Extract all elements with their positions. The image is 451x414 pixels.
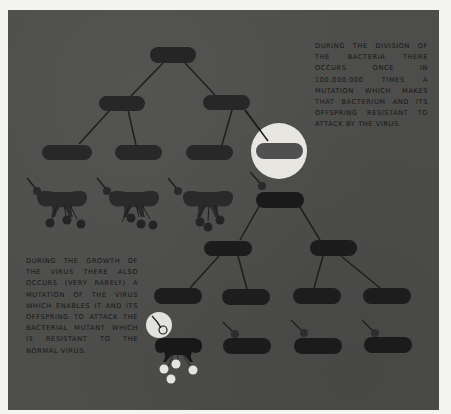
virus-at-resistant-mutant	[250, 172, 266, 190]
mutant-bacterium-gen2-right	[310, 240, 357, 256]
resistant-bacterium-bottom-1	[223, 322, 271, 354]
lysed-bacterium-3	[168, 178, 233, 232]
bacterium-gen3-2	[115, 145, 162, 160]
caption-virus-mutation: During the growth of the virus there als…	[26, 256, 138, 357]
mutant-bacterium-gen3-2	[222, 289, 270, 305]
bacterium-root	[150, 47, 196, 63]
bacterium-gen2-right	[203, 95, 250, 110]
bacterium-gen3-1	[42, 145, 92, 160]
lysed-bacterium-1	[27, 178, 87, 229]
caption-bacterial-mutation: During the division of the bacteria ther…	[315, 41, 428, 131]
bacterium-lysed-by-mutant-virus	[155, 338, 202, 384]
mutant-bacterium-gen1	[256, 192, 304, 208]
lysed-bacterium-2	[97, 178, 159, 230]
resistant-bacterium-bottom-3	[362, 320, 412, 353]
mutant-bacterium-gen2-left	[204, 241, 252, 256]
mutant-virus-progeny	[160, 365, 169, 374]
mutant-bacterium-gen3-3	[293, 288, 341, 304]
mutant-bacterium-gen3-4	[363, 288, 411, 304]
mutant-virus-progeny	[189, 366, 198, 375]
mutant-virus-progeny	[167, 375, 176, 384]
bacterium-gen3-3	[186, 145, 233, 160]
mutant-virus-progeny	[172, 360, 181, 369]
mutant-bacterium-gen3-1	[154, 288, 202, 304]
resistant-mutant-highlight	[245, 110, 307, 179]
resistant-bacterium-bottom-2	[291, 320, 342, 354]
bacterium-gen2-left	[99, 96, 145, 111]
mutant-virus-highlight	[146, 312, 172, 338]
